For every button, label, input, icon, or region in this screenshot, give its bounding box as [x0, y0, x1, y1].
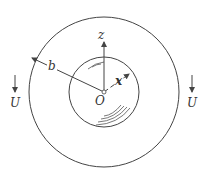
radius-label: b [47, 60, 57, 72]
z-axis-label: z [98, 29, 104, 41]
flow-label-left: U [10, 97, 20, 109]
flow-label-right: U [187, 97, 197, 109]
radius-line [32, 58, 104, 92]
shading-bottom [96, 108, 130, 125]
sphere-flow-diagram [0, 0, 205, 180]
x-axis-label: x [115, 75, 122, 87]
origin-label: O [95, 95, 105, 107]
shading-top [88, 62, 104, 69]
